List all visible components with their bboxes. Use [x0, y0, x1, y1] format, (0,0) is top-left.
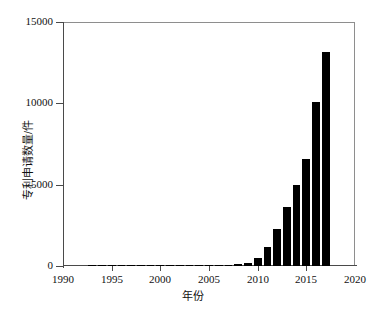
y-axis-tick — [56, 266, 63, 267]
bar-series — [63, 22, 355, 266]
x-axis-tick-label: 2020 — [335, 273, 375, 285]
bar — [195, 265, 203, 266]
bar — [302, 159, 310, 266]
x-axis-tick-label: 2010 — [238, 273, 278, 285]
x-axis-tick-label: 1995 — [92, 273, 132, 285]
bar — [215, 265, 223, 266]
y-axis-tick-label: 10000 — [26, 97, 54, 108]
x-axis-tick — [306, 266, 307, 271]
bar — [186, 265, 194, 266]
bar — [293, 185, 301, 266]
y-axis-tick-label: 5000 — [31, 179, 53, 190]
bar — [312, 102, 320, 266]
y-axis-tick — [56, 22, 63, 23]
x-axis-tick — [160, 266, 161, 271]
x-axis-tick-label: 2015 — [286, 273, 326, 285]
x-axis-tick — [258, 266, 259, 271]
x-axis-tick-label: 2005 — [189, 273, 229, 285]
bar — [137, 265, 145, 266]
bar — [273, 229, 281, 266]
bar — [127, 265, 135, 266]
y-axis-tick — [56, 103, 63, 104]
bar — [234, 264, 242, 266]
patent-applications-bar-chart: 050001000015000 199019952000200520102015… — [0, 0, 385, 320]
x-axis-title-text: 年份 — [182, 290, 204, 302]
bar — [264, 247, 272, 266]
x-axis-tick — [209, 266, 210, 271]
bar — [254, 258, 262, 266]
bar — [322, 52, 330, 266]
y-axis-tick-label: 0 — [48, 260, 54, 271]
bar — [244, 263, 252, 266]
bar — [166, 265, 174, 266]
bar — [283, 207, 291, 266]
y-axis-title-text: 专利申请数量/件 — [22, 120, 34, 200]
bar — [147, 265, 155, 266]
bar — [88, 265, 96, 266]
x-axis-tick — [112, 266, 113, 271]
x-axis-tick-label: 1990 — [43, 273, 83, 285]
y-axis-tick-label: 15000 — [26, 16, 54, 27]
bar — [118, 265, 126, 266]
bar — [98, 265, 106, 266]
y-axis-tick — [56, 185, 63, 186]
x-axis-title: 年份 — [0, 290, 385, 302]
x-axis-tick-label: 2000 — [140, 273, 180, 285]
bar — [225, 265, 233, 266]
bar — [176, 265, 184, 266]
